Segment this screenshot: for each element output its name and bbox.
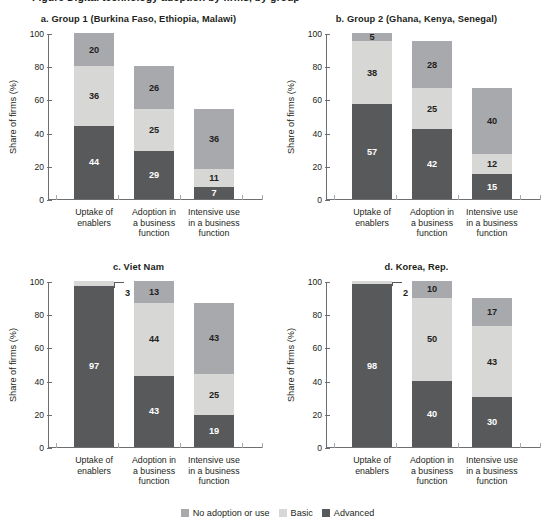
y-tick-label: 100 [308, 277, 322, 287]
y-tick-label: 80 [34, 62, 44, 72]
panel-title-a: a. Group 1 (Burkina Faso, Ethiopia, Mala… [0, 14, 277, 24]
y-tick [47, 200, 52, 201]
x-tick [242, 195, 243, 200]
y-tick-label: 40 [312, 129, 322, 139]
y-tick-label: 100 [308, 29, 322, 39]
y-tick-label: 20 [34, 162, 44, 172]
x-tick [458, 195, 459, 200]
callout-value: 2 [403, 288, 408, 298]
y-tick [325, 100, 330, 101]
plot-area-d: 020406080100984050103043172Uptake ofenab… [326, 282, 541, 448]
y-axis-line [326, 282, 327, 448]
bar-segment-light: 38 [352, 41, 392, 104]
y-tick-label: 60 [312, 343, 322, 353]
plot-area-c: 020406080100974344131925433Uptake ofenab… [48, 282, 263, 448]
y-axis-title-d: Share of firms (%) [285, 282, 297, 448]
y-tick [47, 34, 52, 35]
bar-segment-light: 25 [412, 88, 452, 130]
callout-value: 3 [125, 288, 130, 298]
y-tick [47, 448, 52, 449]
panel-title-b: b. Group 2 (Ghana, Kenya, Senegal) [278, 14, 555, 24]
legend-item-no_adoption[interactable]: No adoption or use [181, 508, 270, 518]
x-tick [540, 443, 541, 448]
y-axis-title-b: Share of firms (%) [285, 34, 297, 200]
y-tick-label: 100 [30, 29, 44, 39]
y-tick [325, 200, 330, 201]
y-tick [325, 415, 330, 416]
y-tick-label: 60 [312, 95, 322, 105]
bar-segment-mid: 13 [134, 281, 174, 303]
legend-label: No adoption or use [193, 508, 270, 518]
y-axis-title-a: Share of firms (%) [7, 34, 19, 200]
x-tick [56, 195, 57, 200]
x-tick [540, 195, 541, 200]
panel-title-d: d. Korea, Rep. [278, 262, 555, 272]
legend-swatch-icon [181, 509, 189, 517]
legend-label: Basic [291, 508, 313, 518]
bar-segment-dark: 15 [472, 174, 512, 199]
bar-segment-mid: 17 [472, 298, 512, 326]
x-category-label: Intensive usein a businessfunction [453, 207, 531, 239]
bar-segment-light: 43 [472, 326, 512, 397]
x-tick [520, 195, 521, 200]
legend-item-basic[interactable]: Basic [279, 508, 313, 518]
callout-leader-line [114, 282, 124, 288]
bar-segment-mid: 5 [352, 33, 392, 41]
y-tick-label: 80 [312, 62, 322, 72]
bar-segment-dark: 97 [74, 286, 114, 447]
bar-segment-dark: 44 [74, 126, 114, 199]
x-tick [118, 443, 119, 448]
y-tick-label: 40 [312, 377, 322, 387]
legend-label: Advanced [334, 508, 374, 518]
bar-segment-dark: 98 [352, 284, 392, 447]
y-tick-label: 80 [312, 310, 322, 320]
y-tick-label: 80 [34, 310, 44, 320]
x-tick [520, 443, 521, 448]
plot-area-a: 02040608010044362029252671136Uptake ofen… [48, 34, 263, 200]
y-tick [325, 34, 330, 35]
x-tick [242, 443, 243, 448]
bar-segment-dark: 40 [412, 381, 452, 447]
y-tick [47, 134, 52, 135]
y-tick [325, 282, 330, 283]
y-tick [325, 67, 330, 68]
y-tick-label: 60 [34, 343, 44, 353]
legend-item-advanced[interactable]: Advanced [322, 508, 374, 518]
legend-swatch-icon [279, 509, 287, 517]
y-tick [325, 382, 330, 383]
bar-segment-light [74, 281, 114, 286]
y-axis-line [48, 34, 49, 200]
x-category-label: Intensive usein a businessfunction [175, 207, 253, 239]
x-tick [118, 195, 119, 200]
y-tick-label: 0 [39, 195, 44, 205]
y-tick-label: 0 [317, 195, 322, 205]
x-axis-line [326, 199, 541, 200]
chart-panel-c: c. Viet Nam Share of firms (%) 020406080… [0, 262, 277, 510]
bar-segment-mid: 26 [134, 66, 174, 109]
y-tick [47, 348, 52, 349]
y-tick [47, 382, 52, 383]
y-tick [47, 315, 52, 316]
x-tick [458, 443, 459, 448]
chart-panel-a: a. Group 1 (Burkina Faso, Ethiopia, Mala… [0, 14, 277, 262]
chart-panel-b: b. Group 2 (Ghana, Kenya, Senegal) Share… [278, 14, 555, 262]
y-tick-label: 0 [39, 443, 44, 453]
chart-panel-d: d. Korea, Rep. Share of firms (%) 020406… [278, 262, 555, 510]
bar-segment-dark: 30 [472, 397, 512, 447]
callout-leader-line [392, 282, 402, 286]
bar-segment-mid: 20 [74, 33, 114, 66]
bar-segment-light: 44 [134, 303, 174, 376]
bar-segment-light: 25 [134, 109, 174, 151]
y-tick [47, 415, 52, 416]
y-tick-label: 60 [34, 95, 44, 105]
bar-segment-light: 50 [412, 298, 452, 381]
bar-segment-dark: 57 [352, 104, 392, 199]
bar-segment-light: 36 [74, 66, 114, 126]
x-tick [396, 443, 397, 448]
x-axis-line [48, 199, 263, 200]
y-tick-label: 40 [34, 377, 44, 387]
bar-segment-light [352, 281, 392, 284]
bar-segment-mid: 28 [412, 41, 452, 87]
bar-segment-dark: 43 [134, 376, 174, 447]
y-tick-label: 40 [34, 129, 44, 139]
